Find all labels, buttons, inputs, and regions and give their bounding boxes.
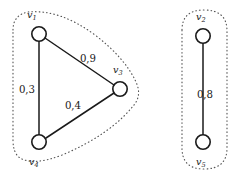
node-label-v5: v5 [196, 156, 206, 169]
nodes [32, 27, 210, 149]
node-label-v4: v4 [29, 156, 39, 169]
edge-weight-v1-v4: 0,3 [19, 84, 35, 95]
edge-weight-labels: 0,9 0,3 0,4 0,8 [19, 53, 213, 111]
edge-weight-v2-v5: 0,8 [197, 89, 213, 100]
weighted-graph-figure: v1 v3 v4 v2 v5 0,9 0,3 0,4 0,8 [0, 0, 242, 178]
node-v2[interactable] [196, 29, 210, 43]
edge-weight-v3-v4: 0,4 [65, 100, 81, 111]
node-v4[interactable] [32, 135, 46, 149]
graph-canvas: v1 v3 v4 v2 v5 0,9 0,3 0,4 0,8 [0, 0, 242, 178]
node-label-v1: v1 [27, 9, 37, 22]
node-v3[interactable] [113, 82, 127, 96]
edge-weight-v1-v3: 0,9 [80, 53, 96, 64]
node-v5[interactable] [196, 135, 210, 149]
node-label-v2: v2 [196, 11, 206, 24]
node-v1[interactable] [32, 27, 46, 41]
node-label-v3: v3 [113, 64, 123, 77]
